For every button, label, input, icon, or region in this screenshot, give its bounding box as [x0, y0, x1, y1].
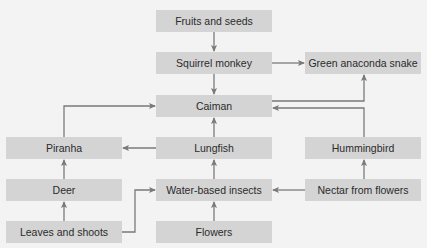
node-hummingbird: Hummingbird — [305, 137, 421, 159]
food-web-diagram: Fruits and seeds Squirrel monkey Green a… — [0, 0, 427, 248]
node-deer: Deer — [6, 179, 122, 201]
node-flowers: Flowers — [156, 221, 272, 243]
node-nectar-from-flowers: Nectar from flowers — [305, 179, 421, 201]
edge-piranha-to-caiman — [64, 106, 155, 137]
node-green-anaconda-snake: Green anaconda snake — [305, 52, 421, 74]
edge-hummingbird-to-caiman — [273, 108, 364, 137]
connector-arrows — [0, 0, 427, 248]
node-lungfish: Lungfish — [156, 137, 272, 159]
node-water-based-insects: Water-based insects — [156, 179, 272, 201]
node-squirrel-monkey: Squirrel monkey — [156, 52, 272, 74]
node-caiman: Caiman — [156, 95, 272, 117]
edge-leaves-to-insects — [122, 190, 155, 232]
node-leaves-and-shoots: Leaves and shoots — [6, 221, 122, 243]
node-piranha: Piranha — [6, 137, 122, 159]
edge-caiman-to-anaconda — [272, 75, 364, 101]
node-fruits-and-seeds: Fruits and seeds — [156, 10, 272, 32]
